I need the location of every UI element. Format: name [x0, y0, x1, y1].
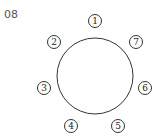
round-table	[57, 38, 133, 114]
seat-2: 2	[47, 35, 61, 49]
seat-7: 7	[129, 35, 143, 49]
round-table-diagram	[0, 0, 162, 139]
seat-4: 4	[64, 119, 78, 133]
seat-1: 1	[88, 14, 102, 28]
seat-6: 6	[138, 81, 152, 95]
seat-5: 5	[111, 119, 125, 133]
seat-3: 3	[37, 81, 51, 95]
